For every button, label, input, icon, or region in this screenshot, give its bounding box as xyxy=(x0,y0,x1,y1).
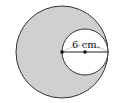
small-circle-center-point xyxy=(83,50,87,54)
large-circle-center-point xyxy=(60,50,64,54)
dimension-label: 6 cm. xyxy=(72,39,100,50)
circle-diagram: 6 cm. xyxy=(0,0,113,103)
